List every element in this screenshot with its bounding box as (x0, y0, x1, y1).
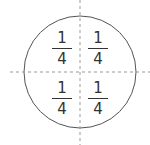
fraction-bottom-left: 1 4 (50, 80, 74, 117)
numerator: 1 (50, 30, 74, 46)
numerator: 1 (86, 30, 110, 46)
numerator: 1 (86, 80, 110, 96)
circle-diagram (0, 0, 150, 145)
fraction-top-right: 1 4 (86, 30, 110, 67)
fraction-bar (88, 48, 108, 49)
denominator: 4 (50, 101, 74, 117)
fraction-bar (52, 98, 72, 99)
denominator: 4 (86, 101, 110, 117)
fraction-top-left: 1 4 (50, 30, 74, 67)
fraction-bar (88, 98, 108, 99)
denominator: 4 (50, 51, 74, 67)
denominator: 4 (86, 51, 110, 67)
fraction-bottom-right: 1 4 (86, 80, 110, 117)
fraction-bar (52, 48, 72, 49)
numerator: 1 (50, 80, 74, 96)
